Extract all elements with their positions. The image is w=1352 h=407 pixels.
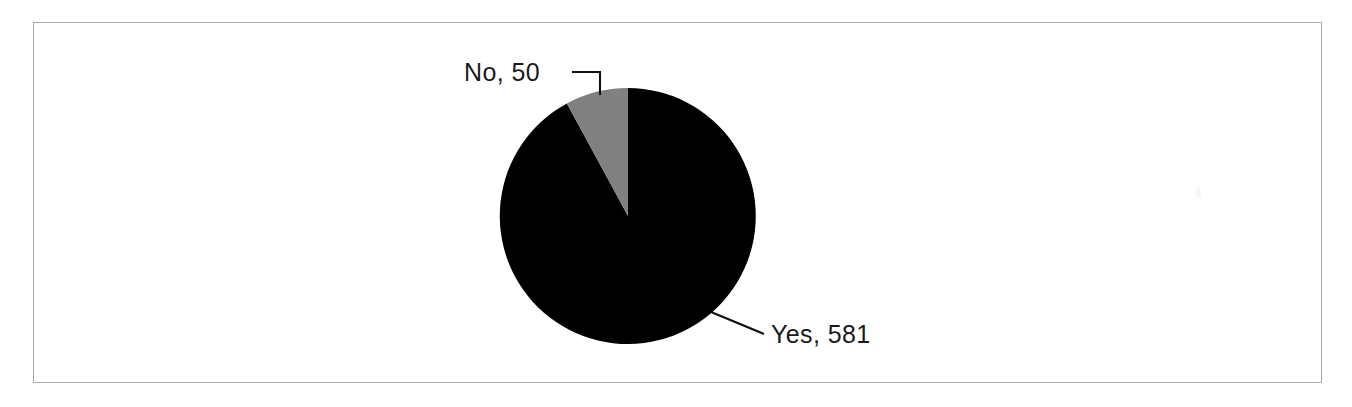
pie-label-yes: Yes, 581 bbox=[771, 320, 871, 348]
leader-line-yes bbox=[711, 312, 764, 334]
pie-chart: No, 50 Yes, 581 bbox=[0, 0, 1352, 407]
pie-label-no: No, 50 bbox=[464, 58, 540, 86]
leader-line-no bbox=[572, 72, 600, 95]
chart-figure: No, 50 Yes, 581 bbox=[0, 0, 1352, 407]
